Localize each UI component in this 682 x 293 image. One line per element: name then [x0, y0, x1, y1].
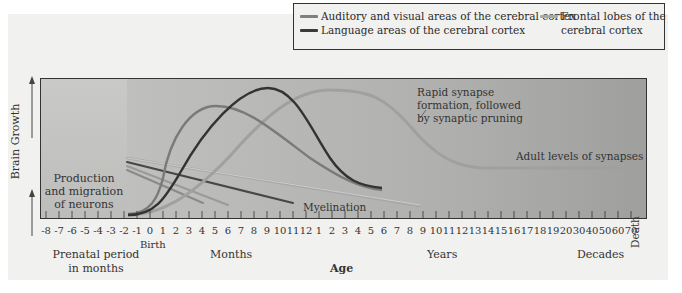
legend-swatch-auditory [300, 15, 318, 18]
tick-label: -6 [67, 225, 77, 236]
years-label: Years [427, 248, 457, 261]
tick-label: 40 [586, 225, 599, 236]
tick-label: 10 [274, 225, 287, 236]
legend-item-language: Language areas of the cerebral cortex [300, 24, 525, 37]
tick-label: 13 [469, 225, 482, 236]
tick-label: 2 [173, 225, 179, 236]
tick-label: 9 [264, 225, 270, 236]
adult-synapses-annotation: Adult levels of synapses [516, 150, 643, 163]
tick-label: 1 [316, 225, 322, 236]
tick-label: 17 [521, 225, 534, 236]
tick-label: 1 [160, 225, 166, 236]
chart-curves [40, 78, 647, 219]
y-axis-label: Brain Growth [9, 104, 22, 180]
tick-label: -4 [93, 225, 103, 236]
tick-label: 7 [238, 225, 244, 236]
tick-label: 0 [147, 225, 153, 236]
legend-item-auditory: Auditory and visual areas of the cerebra… [300, 10, 576, 23]
tick-label: 20 [560, 225, 573, 236]
tick-label: 8 [407, 225, 413, 236]
tick-label: 8 [251, 225, 257, 236]
tick-label: 6 [381, 225, 387, 236]
tick-label: 7 [394, 225, 400, 236]
legend-item-frontal-line2: cerebral cortex [561, 24, 643, 37]
legend-item-frontal: Frontal lobes of the [540, 10, 666, 23]
legend-label-auditory: Auditory and visual areas of the cerebra… [321, 10, 576, 23]
production-migration-annotation: Production and migration of neurons [44, 172, 124, 211]
tick-label: 11 [287, 225, 300, 236]
death-label: Death [629, 216, 642, 248]
y-axis-arrows [29, 76, 37, 246]
tick-label: 15 [495, 225, 508, 236]
tick-label: 4 [355, 225, 361, 236]
tick-label: -7 [54, 225, 64, 236]
tick-label: 10 [430, 225, 443, 236]
tick-label: 19 [547, 225, 560, 236]
legend-swatch-language [300, 29, 318, 32]
tick-label: -1 [132, 225, 142, 236]
tick-label: -8 [41, 225, 51, 236]
tick-label: 11 [443, 225, 456, 236]
tick-label: 3 [186, 225, 192, 236]
myelination-annotation: Myelination [303, 201, 366, 214]
tick-label: 5 [368, 225, 374, 236]
tick-label: 9 [420, 225, 426, 236]
tick-label: 16 [508, 225, 521, 236]
legend-label-frontal: Frontal lobes of the [561, 10, 666, 23]
tick-label: 6 [225, 225, 231, 236]
tick-label: 18 [534, 225, 547, 236]
legend-swatch-frontal [540, 15, 558, 18]
tick-label: 5 [212, 225, 218, 236]
tick-label: 50 [599, 225, 612, 236]
prenatal-label: Prenatal period in months [51, 248, 141, 276]
tick-label: 2 [329, 225, 335, 236]
tick-label: -3 [106, 225, 116, 236]
months-label: Months [210, 248, 252, 261]
x-axis-label: Age [330, 262, 353, 275]
tick-label: 60 [612, 225, 625, 236]
birth-label: Birth [140, 238, 166, 251]
tick-label: -5 [80, 225, 90, 236]
tick-label: 12 [456, 225, 469, 236]
tick-label: 3 [342, 225, 348, 236]
legend-label-language: Language areas of the cerebral cortex [321, 24, 525, 37]
legend: Auditory and visual areas of the cerebra… [293, 3, 665, 50]
legend-label-frontal-2: cerebral cortex [561, 24, 643, 37]
tick-label: 12 [300, 225, 313, 236]
tick-label: 14 [482, 225, 495, 236]
rapid-synapse-annotation: Rapid synapse formation, followed by syn… [417, 86, 523, 125]
tick-label: 30 [573, 225, 586, 236]
tick-label: -2 [119, 225, 129, 236]
decades-label: Decades [577, 248, 624, 261]
tick-label: 4 [199, 225, 205, 236]
